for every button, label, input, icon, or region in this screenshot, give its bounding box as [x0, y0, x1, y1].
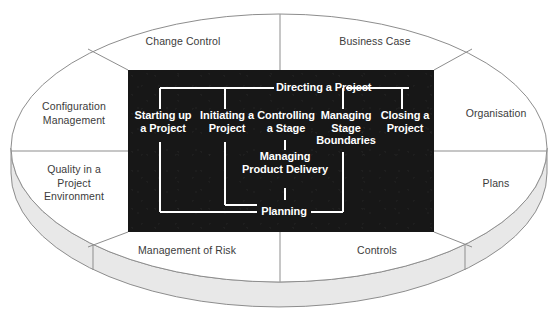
component-label-management-of-risk: Management of Risk [112, 244, 262, 258]
process-initiating-a-project: Initiating a Project [194, 109, 260, 134]
component-label-quality-in-a-project-environment: Quality in a Project Environment [22, 163, 126, 204]
prince2-diagram: Change Control Business Case Configurati… [0, 0, 558, 332]
component-label-business-case: Business Case [310, 35, 440, 49]
component-label-plans: Plans [440, 177, 552, 191]
component-label-configuration-management: Configuration Management [22, 100, 126, 127]
process-managing-stage-boundaries: Managing Stage Boundaries [312, 109, 380, 147]
process-closing-a-project: Closing a Project [376, 109, 434, 134]
process-starting-up-a-project: Starting up a Project [128, 109, 198, 134]
component-label-change-control: Change Control [118, 35, 248, 49]
process-model-panel: Directing a Project Starting up a Projec… [128, 70, 434, 232]
component-label-organisation: Organisation [440, 107, 552, 121]
component-label-controls: Controls [312, 244, 442, 258]
process-planning: Planning [256, 205, 312, 218]
process-directing-a-project: Directing a Project [276, 81, 396, 94]
process-managing-product-delivery: Managing Product Delivery [213, 150, 357, 175]
process-controlling-a-stage: Controlling a Stage [254, 109, 318, 134]
